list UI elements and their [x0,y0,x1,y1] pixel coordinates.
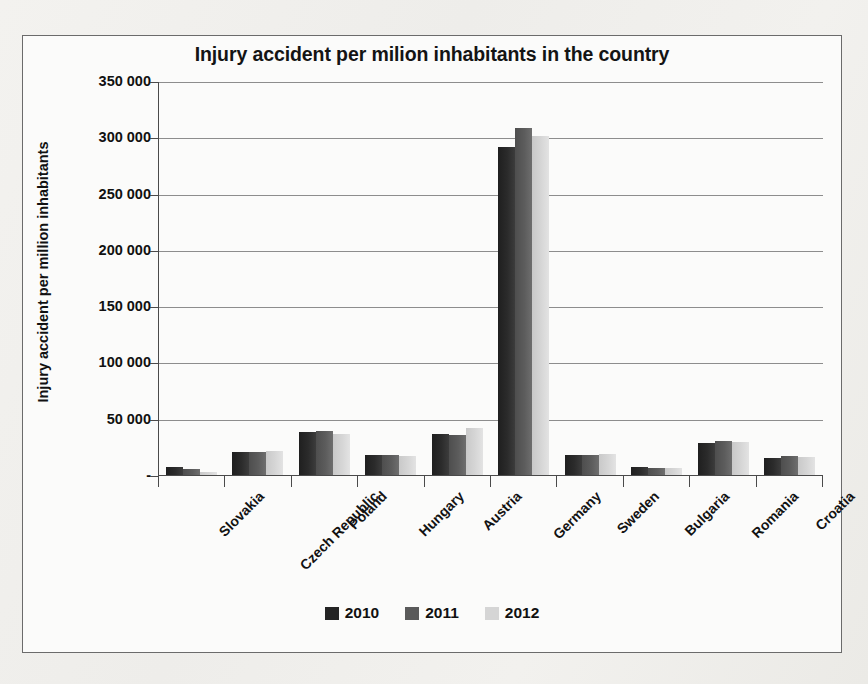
y-axis-tick [150,363,159,364]
x-axis-tick [224,476,225,487]
x-axis-label-austria: Austria [479,488,524,533]
y-axis-tick-labels: 350 000300 000250 000200 000150 000100 0… [41,82,151,476]
x-axis-tick [357,476,358,487]
bar-romania-2011[interactable] [715,441,732,476]
bar-group [690,82,757,476]
bar-poland-2012[interactable] [333,434,350,476]
bar-croatia-2011[interactable] [781,456,798,476]
x-axis-tick [556,476,557,487]
x-axis-category-labels: SlovakiaCzech RepublicPolandHungaryAustr… [158,488,823,598]
y-axis-tick-label: 350 000 [55,73,151,89]
legend-item-2012[interactable]: 2012 [485,604,539,622]
x-axis-tick [756,476,757,487]
bar-czech-republic-2012[interactable] [266,451,283,476]
x-axis-label-slovakia: Slovakia [216,488,267,539]
x-axis-tick [490,476,491,487]
bar-group [225,82,292,476]
y-axis-tick [150,138,159,139]
x-axis-tick [689,476,690,487]
bar-group [358,82,425,476]
chart-frame: Injury accident per milion inhabitants i… [22,35,842,653]
legend-swatch-2011 [405,607,419,620]
bar-poland-2011[interactable] [316,431,333,476]
bar-group [624,82,691,476]
legend-label-2011: 2011 [425,604,459,622]
x-axis-tick [822,476,823,487]
x-axis-label-bulgaria: Bulgaria [681,488,732,539]
x-axis-ticks [158,476,823,487]
bar-austria-2011[interactable] [449,435,466,476]
y-axis-tick-label: 200 000 [55,242,151,258]
x-axis-label-sweden: Sweden [614,488,663,537]
bar-poland-2010[interactable] [299,432,316,476]
bar-group [757,82,824,476]
bar-sweden-2010[interactable] [565,455,582,476]
y-axis-tick [150,307,159,308]
plot-area [158,82,823,476]
bar-sweden-2011[interactable] [582,455,599,476]
chart-title: Injury accident per milion inhabitants i… [23,43,841,66]
x-axis-tick [291,476,292,487]
y-axis-tick-label: 100 000 [55,354,151,370]
bar-group [557,82,624,476]
y-axis-tick-label: 50 000 [55,411,151,427]
x-axis-label-romania: Romania [749,488,802,541]
bar-romania-2012[interactable] [732,442,749,476]
y-axis-tick [150,476,159,477]
x-axis-tick [158,476,159,487]
y-axis-tick-label: 150 000 [55,298,151,314]
bar-austria-2010[interactable] [432,434,449,476]
x-axis-tick [424,476,425,487]
bars-layer [158,82,823,476]
legend-label-2012: 2012 [505,604,539,622]
y-axis-tick [150,195,159,196]
bar-hungary-2010[interactable] [365,455,382,476]
x-axis-label-hungary: Hungary [415,488,466,539]
bar-croatia-2010[interactable] [764,458,781,476]
legend-swatch-2010 [325,607,339,620]
y-axis-tick-label: 250 000 [55,186,151,202]
bar-germany-2011[interactable] [515,128,532,476]
x-axis-label-germany: Germany [549,488,603,542]
x-axis-label-croatia: Croatia [812,488,857,533]
chart-legend: 201020112012 [23,604,841,622]
y-axis-tick-label: 300 000 [55,129,151,145]
bar-group [424,82,491,476]
bar-germany-2010[interactable] [498,147,515,476]
bar-group [291,82,358,476]
bar-croatia-2012[interactable] [798,457,815,476]
bar-czech-republic-2011[interactable] [249,452,266,476]
bar-czech-republic-2010[interactable] [232,452,249,476]
y-axis-tick [150,251,159,252]
bar-group [491,82,558,476]
bar-austria-2012[interactable] [466,428,483,476]
legend-label-2010: 2010 [345,604,379,622]
legend-item-2010[interactable]: 2010 [325,604,379,622]
x-axis-tick [623,476,624,487]
bar-romania-2010[interactable] [698,443,715,476]
bar-germany-2012[interactable] [532,136,549,476]
bar-sweden-2012[interactable] [599,454,616,477]
legend-item-2011[interactable]: 2011 [405,604,459,622]
y-axis-tick [150,420,159,421]
bar-hungary-2012[interactable] [399,456,416,476]
legend-swatch-2012 [485,607,499,620]
y-axis-tick-label: - [55,467,151,483]
bar-group [158,82,225,476]
bar-hungary-2011[interactable] [382,455,399,476]
y-axis-tick [150,82,159,83]
